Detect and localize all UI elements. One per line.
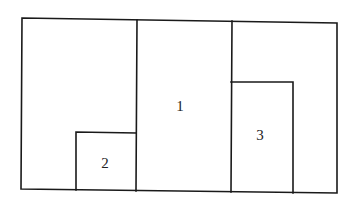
- divider-left: [136, 20, 137, 191]
- region-3-label: 3: [256, 128, 264, 143]
- region-1-label: 1: [176, 99, 184, 114]
- divider-right: [231, 21, 232, 192]
- region-2-label: 2: [101, 156, 109, 171]
